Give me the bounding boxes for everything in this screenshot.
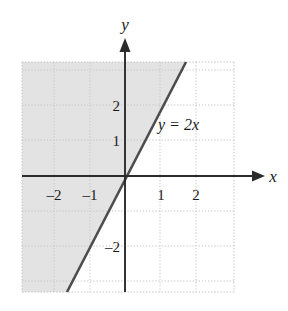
shaded-region (22, 62, 185, 292)
x-tick-label-2: 2 (192, 187, 200, 203)
y-axis-label: y (119, 15, 129, 34)
x-axis-label: x (268, 167, 277, 186)
y-tick-label-2: 2 (113, 98, 121, 114)
graph-canvas: –2 –1 1 2 2 1 –2 y x y = 2x (0, 0, 288, 311)
inequality-graph-figure: –2 –1 1 2 2 1 –2 y x y = 2x (0, 0, 288, 311)
y-tick-label-1: 1 (113, 133, 121, 149)
x-tick-label--2: –2 (46, 187, 62, 203)
curve-label: y = 2x (156, 116, 199, 134)
x-tick-label-1: 1 (157, 187, 165, 203)
arrow-up-icon (120, 38, 131, 52)
arrow-right-icon (252, 171, 265, 182)
y-tick-label--2: –2 (104, 239, 120, 255)
x-tick-label--1: –1 (82, 187, 98, 203)
